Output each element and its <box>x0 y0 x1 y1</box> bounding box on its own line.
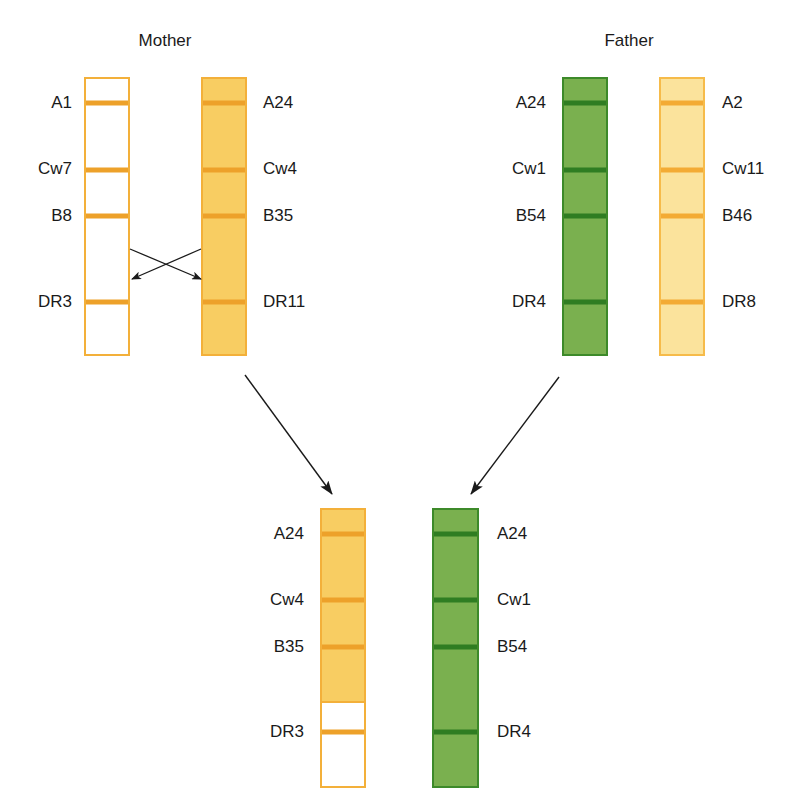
arrows-layer <box>0 0 791 803</box>
inheritance-arrow-father <box>471 377 559 494</box>
inheritance-arrow-mother <box>245 375 332 494</box>
